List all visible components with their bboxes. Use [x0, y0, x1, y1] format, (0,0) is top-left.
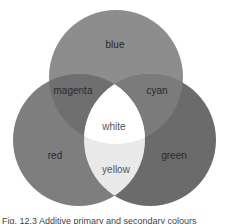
label-yellow: yellow: [102, 164, 131, 175]
figure-caption: Fig. 12.3 Additive primary and secondary…: [2, 216, 197, 224]
label-red: red: [48, 150, 62, 161]
label-white: white: [101, 121, 126, 132]
label-magenta: magenta: [54, 85, 93, 96]
label-green: green: [161, 150, 187, 161]
label-cyan: cyan: [146, 85, 167, 96]
label-blue: blue: [106, 39, 125, 50]
venn-diagram: blue magenta cyan white red yellow green: [0, 0, 225, 224]
